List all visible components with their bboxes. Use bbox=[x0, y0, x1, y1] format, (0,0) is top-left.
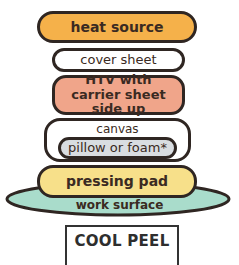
cover-sheet-label: cover sheet bbox=[80, 53, 156, 68]
cool-peel-box: COOL PEEL bbox=[65, 225, 179, 265]
canvas-label: canvas bbox=[96, 123, 138, 137]
pressing-pad-layer: pressing pad bbox=[37, 165, 197, 198]
cool-peel-label: COOL PEEL bbox=[74, 232, 169, 250]
htv-layer: HTV with carrier sheet side up bbox=[52, 75, 185, 115]
cover-sheet-layer: cover sheet bbox=[52, 48, 185, 72]
pillow-label: pillow or foam* bbox=[68, 141, 167, 156]
work-surface-label: work surface bbox=[0, 198, 239, 212]
htv-label: HTV with carrier sheet side up bbox=[61, 73, 176, 118]
heat-source-layer: heat source bbox=[37, 11, 197, 43]
pillow-layer: pillow or foam* bbox=[58, 137, 177, 159]
heat-source-label: heat source bbox=[70, 19, 163, 35]
pressing-pad-label: pressing pad bbox=[66, 173, 168, 189]
